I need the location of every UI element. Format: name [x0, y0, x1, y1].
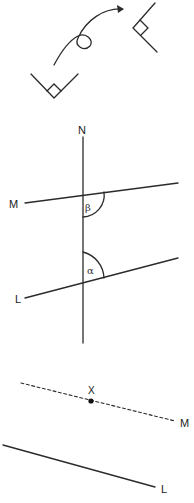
diagram-svg: N M L β α X M L — [0, 0, 194, 503]
line-M — [25, 183, 178, 203]
label-L-bottom: L — [161, 483, 167, 495]
rotation-panel — [31, 3, 157, 98]
rotation-arrow — [54, 9, 122, 65]
label-L: L — [15, 293, 21, 305]
arrowhead-icon — [117, 5, 124, 13]
solid-line-L — [3, 445, 155, 487]
diagram-canvas: N M L β α X M L — [0, 0, 194, 503]
label-alpha: α — [87, 265, 94, 276]
label-X: X — [88, 385, 95, 396]
transversal-panel: N M L β α — [9, 124, 178, 343]
dashed-line-M — [21, 383, 175, 421]
point-X — [88, 398, 93, 403]
label-M: M — [9, 198, 18, 210]
label-beta: β — [85, 202, 91, 213]
line-L — [25, 258, 178, 298]
source-right-angle — [31, 74, 78, 98]
label-M-bottom: M — [180, 417, 189, 429]
parallel-panel: X M L — [3, 383, 189, 495]
label-N: N — [78, 124, 86, 136]
target-right-angle — [133, 3, 157, 52]
